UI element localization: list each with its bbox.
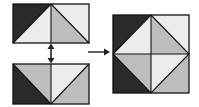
- combined-square: [113, 15, 189, 93]
- right-arrow-icon: [88, 49, 110, 56]
- tile-composition-diagram: [0, 0, 199, 107]
- double-arrow-icon: [48, 44, 55, 64]
- bottom-rectangle: [13, 64, 89, 104]
- top-rectangle: [13, 4, 89, 43]
